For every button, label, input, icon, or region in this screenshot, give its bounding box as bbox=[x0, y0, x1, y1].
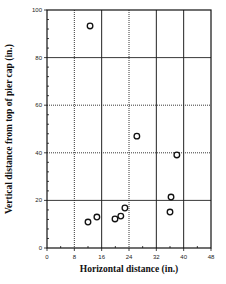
y-tick-labels: 020406080100 bbox=[32, 7, 43, 251]
y-tick-label: 0 bbox=[39, 245, 43, 251]
axes bbox=[44, 10, 211, 251]
data-point-marker bbox=[168, 194, 174, 200]
x-tick-label: 32 bbox=[153, 254, 160, 260]
grid-lines bbox=[47, 10, 211, 248]
x-axis-title: Horizontal distance (in.) bbox=[80, 264, 178, 275]
data-point-marker bbox=[174, 152, 180, 158]
y-tick-label: 80 bbox=[35, 55, 42, 61]
data-point-marker bbox=[94, 214, 100, 220]
data-point-marker bbox=[167, 209, 173, 215]
data-point-marker bbox=[87, 23, 93, 29]
y-tick-label: 40 bbox=[35, 150, 42, 156]
data-point-marker bbox=[118, 213, 124, 219]
y-tick-label: 100 bbox=[32, 7, 43, 13]
x-tick-label: 40 bbox=[180, 254, 187, 260]
x-tick-label: 0 bbox=[45, 254, 49, 260]
x-tick-label: 16 bbox=[98, 254, 105, 260]
data-point-marker bbox=[85, 219, 91, 225]
data-point-marker bbox=[122, 205, 128, 211]
data-points bbox=[85, 23, 179, 225]
y-tick-label: 20 bbox=[35, 197, 42, 203]
x-tick-label: 24 bbox=[126, 254, 133, 260]
x-tick-labels: 081624324048 bbox=[45, 254, 215, 260]
y-tick-label: 60 bbox=[35, 102, 42, 108]
x-tick-label: 8 bbox=[73, 254, 77, 260]
scatter-chart: 081624324048 020406080100 Horizontal dis… bbox=[0, 0, 226, 284]
x-tick-label: 48 bbox=[208, 254, 215, 260]
data-point-marker bbox=[112, 216, 118, 222]
data-point-marker bbox=[134, 133, 140, 139]
y-axis-title: Vertical distance from top of pier cap (… bbox=[4, 44, 15, 214]
